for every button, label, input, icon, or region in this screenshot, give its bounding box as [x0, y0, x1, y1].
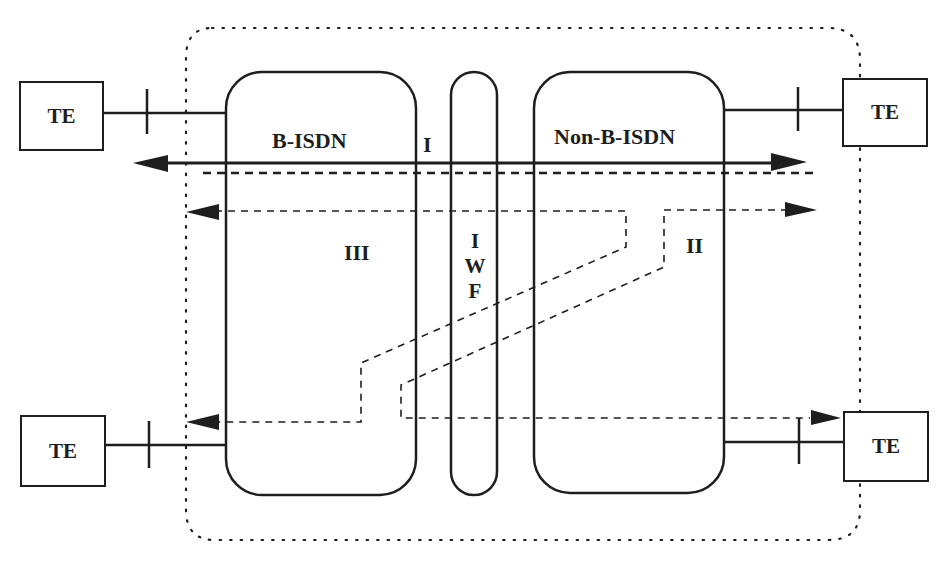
- iwf-label-letter-i: I: [460, 229, 490, 254]
- te-top-right-label: TE: [871, 100, 899, 125]
- path-ii-top-arrowhead: [785, 202, 817, 217]
- b-isdn-label: B-ISDN: [272, 130, 347, 152]
- network-boundary: [186, 28, 860, 540]
- non-b-isdn-label: Non-B-ISDN: [554, 126, 675, 148]
- path-iii-bottom-arrowhead: [186, 414, 219, 430]
- interworking-diagram: TE TE TE TE B-ISDN Non-B-ISDN I III II I…: [0, 0, 946, 567]
- te-top-left: TE: [19, 81, 104, 151]
- te-bottom-left-label: TE: [49, 439, 77, 464]
- te-bottom-right-label: TE: [872, 434, 900, 459]
- te-bottom-left: TE: [20, 415, 106, 487]
- path-ii-label: II: [686, 235, 703, 257]
- path-i-left-arrowhead: [133, 155, 168, 172]
- path-i-right-arrowhead: [771, 153, 807, 171]
- path-iii-label: III: [344, 242, 370, 264]
- te-bottom-right: TE: [843, 411, 929, 482]
- te-top-right: TE: [842, 78, 928, 147]
- te-top-left-label: TE: [47, 104, 75, 129]
- path-iii-dashed-route: [215, 211, 626, 422]
- iwf-label-letter-f: F: [460, 279, 490, 304]
- path-iii-top-arrowhead: [186, 204, 219, 220]
- path-i-label: I: [423, 134, 432, 156]
- path-ii-bottom-arrowhead: [811, 410, 841, 425]
- iwf-label-letter-w: W: [460, 254, 490, 279]
